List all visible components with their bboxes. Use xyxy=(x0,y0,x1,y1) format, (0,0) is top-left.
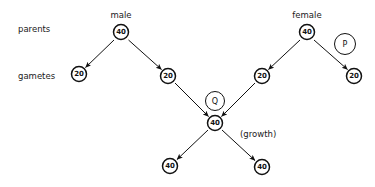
process-p-label: P xyxy=(343,40,348,49)
gamete-2-value: 20 xyxy=(163,72,173,80)
edge-female-to-gamete-3 xyxy=(269,40,301,70)
process-marker-p: P xyxy=(335,34,356,55)
node-zygote: 40 xyxy=(208,116,223,131)
diagram-canvas: parents gametes male female (growth) 40 … xyxy=(0,0,375,187)
edge-gamete-2-to-zygote xyxy=(175,83,209,117)
node-offspring-cell-1: 40 xyxy=(163,159,178,174)
gamete-1-value: 20 xyxy=(74,70,84,78)
node-male-parent: 40 xyxy=(114,25,129,40)
process-marker-q: Q xyxy=(206,92,225,111)
meiosis-fertilisation-diagram: parents gametes male female (growth) 40 … xyxy=(0,0,375,187)
node-female-parent: 40 xyxy=(300,25,315,40)
zygote-value: 40 xyxy=(210,119,220,127)
edge-gamete-3-to-zygote xyxy=(222,83,256,117)
label-female: female xyxy=(292,10,321,20)
label-growth: (growth) xyxy=(240,129,276,139)
node-gamete-1: 20 xyxy=(72,67,87,82)
male-parent-value: 40 xyxy=(116,28,126,36)
edge-male-to-gamete-2 xyxy=(129,40,162,70)
edge-male-to-gamete-1 xyxy=(86,40,115,68)
node-gamete-2: 20 xyxy=(161,69,176,84)
gamete-3-value: 20 xyxy=(257,72,267,80)
edge-zygote-to-offspring-1 xyxy=(177,130,208,160)
offspring-1-value: 40 xyxy=(165,162,175,170)
node-gamete-3: 20 xyxy=(255,69,270,84)
label-male: male xyxy=(110,10,131,20)
node-gamete-4: 20 xyxy=(347,69,362,84)
process-q-label: Q xyxy=(212,97,218,106)
row-label-parents: parents xyxy=(18,24,51,34)
row-label-gametes: gametes xyxy=(18,71,56,81)
node-offspring-cell-2: 40 xyxy=(255,160,270,175)
gamete-4-value: 20 xyxy=(349,72,359,80)
female-parent-value: 40 xyxy=(302,28,312,36)
offspring-2-value: 40 xyxy=(257,163,267,171)
